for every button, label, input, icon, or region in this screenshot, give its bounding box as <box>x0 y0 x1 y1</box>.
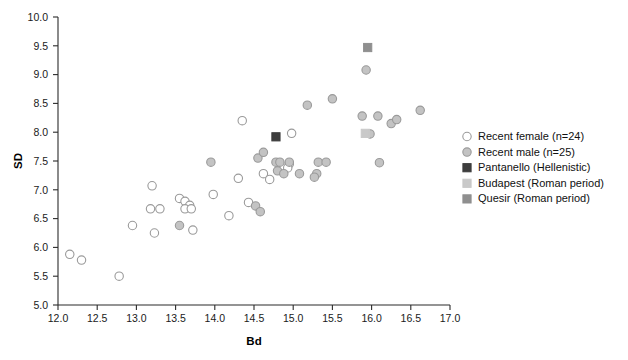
data-point <box>285 158 293 166</box>
data-point <box>256 207 264 215</box>
data-point <box>295 169 303 177</box>
series-2 <box>272 133 280 141</box>
legend-label-0: Recent female (n=24) <box>478 130 584 142</box>
legend-label-4: Quesir (Roman period) <box>478 192 590 204</box>
data-point <box>358 112 366 120</box>
legend-label-1: Recent male (n=25) <box>478 146 575 158</box>
data-point <box>156 205 164 213</box>
data-point <box>209 190 217 198</box>
data-point <box>322 158 330 166</box>
y-tick-label: 5.0 <box>33 299 48 311</box>
y-tick-label: 9.5 <box>33 40 48 52</box>
y-axis-title: SD <box>12 153 24 169</box>
data-point <box>375 159 383 167</box>
x-tick-label: 14.0 <box>205 312 226 324</box>
x-tick-label: 13.5 <box>165 312 186 324</box>
y-tick-label: 7.0 <box>33 184 48 196</box>
data-point <box>189 226 197 234</box>
x-tick-label: 13.0 <box>126 312 147 324</box>
data-point <box>148 182 156 190</box>
y-tick-label: 7.5 <box>33 155 48 167</box>
data-point <box>361 129 369 137</box>
data-point <box>314 158 322 166</box>
y-tick-label: 6.0 <box>33 241 48 253</box>
data-point <box>287 129 295 137</box>
x-tick-label: 12.0 <box>48 312 69 324</box>
legend-marker-0 <box>463 132 471 140</box>
x-tick-label: 16.0 <box>361 312 382 324</box>
data-point <box>128 221 136 229</box>
y-tick-label: 6.5 <box>33 212 48 224</box>
legend-marker-3 <box>463 179 471 187</box>
legend-marker-2 <box>463 164 471 172</box>
data-point <box>310 173 318 181</box>
y-tick-label: 8.0 <box>33 126 48 138</box>
data-point <box>272 133 280 141</box>
series-0 <box>66 116 296 280</box>
data-point <box>187 205 195 213</box>
data-points <box>66 43 425 280</box>
data-point <box>225 212 233 220</box>
x-tick-label: 12.5 <box>87 312 108 324</box>
y-tick-label: 8.5 <box>33 97 48 109</box>
data-point <box>234 174 242 182</box>
x-tick-labels: 12.012.513.013.514.014.515.015.516.016.5… <box>48 312 461 324</box>
data-point <box>66 250 74 258</box>
data-point <box>416 106 424 114</box>
axes <box>58 17 450 305</box>
data-point <box>115 272 123 280</box>
legend-marker-4 <box>463 195 471 203</box>
y-tick-label: 5.5 <box>33 270 48 282</box>
data-point <box>207 158 215 166</box>
series-3 <box>361 129 369 137</box>
x-tick-label: 17.0 <box>440 312 461 324</box>
data-point <box>259 148 267 156</box>
data-point <box>374 112 382 120</box>
x-tick-label: 16.5 <box>401 312 422 324</box>
x-tick-label: 15.0 <box>283 312 304 324</box>
x-tick-label: 15.5 <box>322 312 343 324</box>
scatter-chart: 12.012.513.013.514.014.515.015.516.016.5… <box>0 0 628 360</box>
data-point <box>276 158 284 166</box>
legend-label-3: Budapest (Roman period) <box>478 177 604 189</box>
y-tick-label: 9.0 <box>33 68 48 80</box>
legend-label-2: Pantanello (Hellenistic) <box>478 161 591 173</box>
series-1 <box>175 66 424 230</box>
x-tick-label: 14.5 <box>244 312 265 324</box>
plot-svg: 12.012.513.013.514.014.515.015.516.016.5… <box>0 0 628 360</box>
data-point <box>364 43 372 51</box>
data-point <box>392 115 400 123</box>
data-point <box>280 169 288 177</box>
series-4 <box>364 43 372 51</box>
tick-marks <box>53 17 450 310</box>
y-tick-labels: 5.05.56.06.57.07.58.08.59.09.510.0 <box>28 11 49 311</box>
legend: Recent female (n=24)Recent male (n=25)Pa… <box>463 130 604 204</box>
data-point <box>238 116 246 124</box>
data-point <box>303 101 311 109</box>
data-point <box>265 175 273 183</box>
y-tick-label: 10.0 <box>28 11 49 23</box>
legend-marker-1 <box>463 148 471 156</box>
x-axis-title: Bd <box>246 335 261 347</box>
data-point <box>146 205 154 213</box>
data-point <box>175 221 183 229</box>
data-point <box>328 95 336 103</box>
data-point <box>362 66 370 74</box>
data-point <box>150 229 158 237</box>
data-point <box>77 256 85 264</box>
